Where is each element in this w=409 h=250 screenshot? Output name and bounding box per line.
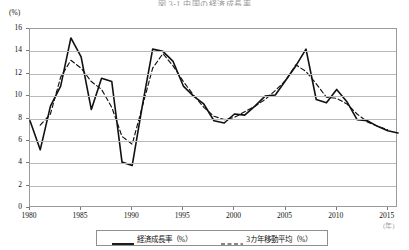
y-tick-mark-2 xyxy=(26,185,29,186)
y-tick-mark-4 xyxy=(26,162,29,163)
plot-area xyxy=(29,28,397,207)
x-axis-unit-label: (年) xyxy=(383,220,395,230)
y-tick-label-4: 4 xyxy=(0,158,22,166)
y-tick-label-14: 14 xyxy=(0,46,22,54)
x-tick-mark-2005 xyxy=(285,207,286,210)
y-axis-unit-label: (%) xyxy=(9,8,20,17)
x-tick-mark-2000 xyxy=(233,207,234,210)
x-tick-mark-2010 xyxy=(336,207,337,210)
gridline-y-2 xyxy=(30,186,396,187)
y-tick-mark-16 xyxy=(26,28,29,29)
x-tick-mark-1985 xyxy=(80,207,81,210)
series-moving-average-line xyxy=(40,54,388,145)
x-tick-label-2015: 2015 xyxy=(372,211,402,220)
y-tick-label-2: 2 xyxy=(0,181,22,189)
y-tick-mark-6 xyxy=(26,140,29,141)
gridline-y-14 xyxy=(30,51,396,52)
y-tick-mark-8 xyxy=(26,118,29,119)
gridline-y-8 xyxy=(30,119,396,120)
solid-line-swatch xyxy=(112,234,134,242)
x-tick-mark-1990 xyxy=(131,207,132,210)
legend-item-moving-average: 3カ年移動平均（%） xyxy=(221,233,312,244)
x-tick-mark-1995 xyxy=(182,207,183,210)
x-tick-label-1980: 1980 xyxy=(14,211,44,220)
gridline-y-12 xyxy=(30,74,396,75)
series-growth-rate-line xyxy=(30,38,398,166)
y-tick-label-10: 10 xyxy=(0,91,22,99)
y-tick-mark-14 xyxy=(26,50,29,51)
legend: 経済成長率（%） 3カ年移動平均（%） xyxy=(96,230,328,246)
figure-title: 図 3-1 中国の経済成長率 xyxy=(0,0,409,6)
figure-container: 図 3-1 中国の経済成長率 (%) 024681012141619801985… xyxy=(0,0,409,250)
gridline-y-6 xyxy=(30,141,396,142)
x-tick-label-2010: 2010 xyxy=(321,211,351,220)
x-tick-label-1995: 1995 xyxy=(167,211,197,220)
legend-label-moving-average: 3カ年移動平均（%） xyxy=(246,233,312,244)
y-tick-label-6: 6 xyxy=(0,136,22,144)
y-tick-label-0: 0 xyxy=(0,203,22,211)
y-tick-mark-12 xyxy=(26,73,29,74)
x-tick-label-1985: 1985 xyxy=(65,211,95,220)
x-tick-label-2005: 2005 xyxy=(270,211,300,220)
legend-label-growth-rate: 経済成長率（%） xyxy=(137,233,192,244)
gridline-y-10 xyxy=(30,96,396,97)
y-tick-label-8: 8 xyxy=(0,114,22,122)
y-tick-mark-10 xyxy=(26,95,29,96)
x-tick-label-1990: 1990 xyxy=(116,211,146,220)
legend-item-growth-rate: 経済成長率（%） xyxy=(112,233,192,244)
gridline-y-4 xyxy=(30,163,396,164)
dashed-line-swatch xyxy=(221,234,243,242)
y-tick-label-12: 12 xyxy=(0,69,22,77)
x-tick-label-2000: 2000 xyxy=(218,211,248,220)
y-tick-label-16: 16 xyxy=(0,24,22,32)
x-tick-mark-1980 xyxy=(29,207,30,210)
x-tick-mark-2015 xyxy=(387,207,388,210)
